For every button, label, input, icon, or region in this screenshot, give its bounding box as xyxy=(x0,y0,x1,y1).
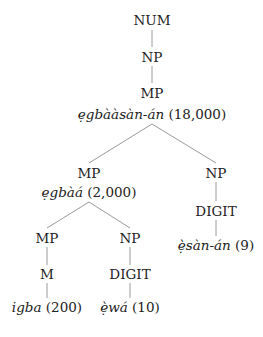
node-m: M xyxy=(40,266,54,282)
gloss: (18,000) xyxy=(168,106,226,122)
node-digit-bottom-value: ẹ̀wá (10) xyxy=(100,299,160,315)
node-mp: MP xyxy=(141,85,164,101)
node-digit-right-value: ẹ̀sàn-án (9) xyxy=(178,237,254,253)
word: ẹ̀sàn-án xyxy=(178,237,231,253)
gloss: (200) xyxy=(46,299,82,315)
node-mp-left-value: ẹgbàá (2,000) xyxy=(42,184,137,200)
node-mp-left: MP xyxy=(78,165,101,181)
word: ẹ̀wá xyxy=(100,299,128,315)
node-np: NP xyxy=(142,49,163,65)
node-np-right: NP xyxy=(206,165,227,181)
gloss: (9) xyxy=(235,237,254,253)
gloss: (2,000) xyxy=(87,184,136,200)
node-digit-bottom: DIGIT xyxy=(109,266,150,282)
node-np-bottom: NP xyxy=(120,230,141,246)
word: ẹgbàá xyxy=(42,184,83,200)
node-mp-bottom: MP xyxy=(36,230,59,246)
gloss: (10) xyxy=(132,299,160,315)
word: ẹgbààsàn-án xyxy=(78,106,164,122)
word: igba xyxy=(12,299,42,315)
node-mp-value: ẹgbààsàn-án (18,000) xyxy=(78,106,226,122)
node-m-value: igba (200) xyxy=(12,299,82,315)
node-num: NUM xyxy=(133,12,170,28)
node-digit-right: DIGIT xyxy=(195,203,236,219)
